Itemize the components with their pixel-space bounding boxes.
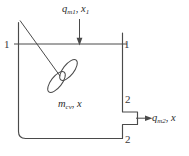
control-volume-label: mcv, x [58,99,82,111]
thermodynamics-control-volume-figure: qm1, x1 mcv, x qm2, x 1 1 2 2 [0,0,189,156]
cv-quality-symbol: x [77,98,82,109]
section-label-2-upper: 2 [125,94,131,105]
inlet-quality-subscript: 1 [86,8,90,16]
inlet-stream-label: qm1, x1 [62,4,89,16]
outlet-flow-arrow [136,115,153,121]
cv-mass-symbol: m [58,98,66,109]
inlet-flow-arrow [77,19,83,46]
outlet-quality-symbol: x [171,112,176,123]
section-label-1-left: 1 [4,39,10,50]
stirrer-shaft [20,21,60,77]
inlet-subscript: m1 [67,8,76,16]
outlet-stream-label: qm2, x [152,113,176,125]
section-label-2-lower: 2 [125,134,131,145]
section-label-1-right: 1 [124,39,130,50]
outlet-subscript: m2 [157,117,166,125]
figure-drawing-canvas [0,0,189,156]
